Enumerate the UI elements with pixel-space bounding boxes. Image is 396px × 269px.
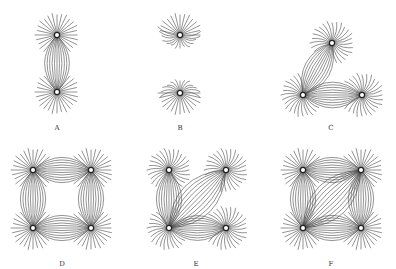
radial-field-line <box>229 218 246 226</box>
link-field-line <box>303 95 362 98</box>
field-lines-diagram <box>0 0 396 269</box>
link-field-line <box>33 170 91 173</box>
link-field-line <box>30 170 33 228</box>
link-field-line <box>361 170 364 228</box>
link-field-line <box>303 95 362 108</box>
link-field-line <box>33 170 36 228</box>
pole-icon <box>30 225 35 230</box>
radial-field-line <box>229 160 246 168</box>
panel-label: A <box>54 124 59 132</box>
pole-icon <box>359 92 364 97</box>
link-field-line <box>303 228 361 231</box>
panel-label: B <box>177 124 182 132</box>
radial-field-line <box>310 41 329 43</box>
link-field-line <box>33 228 91 231</box>
pole-icon <box>300 167 305 172</box>
link-field-line <box>33 225 91 228</box>
radial-field-line <box>229 170 246 171</box>
pole-icon <box>223 225 228 230</box>
radial-field-line <box>227 173 235 190</box>
radial-field-line <box>224 231 226 249</box>
radial-field-line <box>301 98 303 116</box>
link-field-line <box>88 170 91 228</box>
radial-field-line <box>360 98 362 116</box>
radial-field-line <box>320 27 331 40</box>
radial-field-line <box>363 98 371 115</box>
link-field-line <box>54 35 57 92</box>
link-field-line <box>91 170 94 228</box>
radial-field-line <box>335 43 352 44</box>
pole-icon <box>177 32 182 37</box>
radial-field-line <box>365 95 382 96</box>
radial-field-line <box>147 226 166 228</box>
radial-field-line <box>226 208 227 225</box>
radial-field-line <box>281 93 300 95</box>
panel-label: F <box>329 260 334 268</box>
link-field-line <box>166 170 169 228</box>
pole-icon <box>223 167 228 172</box>
radial-field-line <box>226 150 227 167</box>
radial-field-line <box>227 231 235 248</box>
link-field-line <box>33 167 91 170</box>
radial-field-line <box>229 228 246 229</box>
pole-icon <box>88 225 93 230</box>
link-field-line <box>303 92 362 95</box>
link-field-line <box>169 170 172 228</box>
panel-d <box>11 149 111 250</box>
pole-icon <box>358 225 363 230</box>
pole-icon <box>177 90 182 95</box>
radial-field-line <box>157 154 168 167</box>
radial-field-line <box>161 90 177 92</box>
radial-field-line <box>169 150 170 167</box>
pole-icon <box>88 167 93 172</box>
panel-label: E <box>193 260 198 268</box>
link-field-line <box>303 170 361 228</box>
pole-icon <box>329 40 334 45</box>
pole-icon <box>300 225 305 230</box>
radial-field-line <box>362 75 363 92</box>
pole-icon <box>166 225 171 230</box>
radial-field-line <box>175 38 179 49</box>
pole-icon <box>30 167 35 172</box>
pole-icon <box>54 32 59 37</box>
panel-e <box>147 149 246 250</box>
link-field-line <box>303 82 362 95</box>
radial-field-line <box>332 23 333 40</box>
radial-field-line <box>172 170 189 171</box>
link-field-line <box>169 228 226 231</box>
radial-field-line <box>147 168 166 170</box>
panel-label: D <box>59 260 65 268</box>
radial-field-line <box>333 46 341 63</box>
link-field-line <box>300 170 303 228</box>
panel-b <box>158 14 200 115</box>
radial-field-line <box>291 79 302 92</box>
radial-field-line <box>365 85 382 93</box>
radial-field-line <box>183 36 200 38</box>
radial-field-line <box>204 168 223 170</box>
pole-icon <box>358 167 363 172</box>
link-field-line <box>156 170 169 228</box>
link-field-line <box>169 228 226 241</box>
radial-field-line <box>183 89 200 91</box>
panel-a <box>35 14 77 114</box>
panel-c <box>281 22 382 117</box>
link-field-line <box>57 35 60 92</box>
link-field-line <box>303 167 361 170</box>
panel-f <box>281 149 381 250</box>
pole-icon <box>54 89 59 94</box>
panel-label: C <box>328 124 333 132</box>
pole-icon <box>300 92 305 97</box>
radial-field-line <box>214 154 225 167</box>
radial-field-line <box>167 231 169 249</box>
pole-icon <box>166 167 171 172</box>
radial-field-line <box>172 160 189 168</box>
radial-field-line <box>335 33 352 41</box>
radial-field-line <box>163 37 178 42</box>
